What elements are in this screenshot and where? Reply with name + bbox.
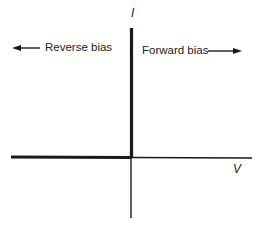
- current-axis-label: I: [131, 6, 134, 20]
- reverse-current-curve: [11, 157, 131, 158]
- forward-bias-arrow: [208, 48, 242, 54]
- voltage-axis-positive: [131, 158, 252, 159]
- reverse-bias-arrow: [12, 45, 40, 51]
- voltage-axis-label: V: [233, 162, 241, 176]
- forward-bias-label: Forward bias: [142, 44, 208, 56]
- iv-diagram: [0, 0, 263, 231]
- reverse-bias-label: Reverse bias: [45, 41, 112, 53]
